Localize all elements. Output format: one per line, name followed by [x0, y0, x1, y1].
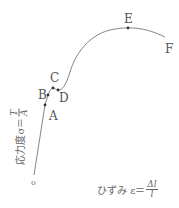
- label-E: E: [124, 13, 133, 25]
- label-D: D: [59, 92, 69, 104]
- origin-label: o: [31, 178, 36, 187]
- x-axis-text: ひずみ ε＝: [97, 182, 145, 197]
- y-axis-fraction: T A: [10, 109, 29, 117]
- label-B: B: [38, 89, 47, 101]
- y-axis-label: 応力度σ＝ T A: [10, 75, 29, 165]
- x-axis-label: ひずみ ε＝ Δl l: [97, 180, 158, 199]
- label-A: A: [49, 110, 58, 122]
- y-axis-text: 応力度σ＝: [12, 118, 27, 165]
- point-B-marker: [47, 94, 50, 97]
- y-frac-den: A: [20, 109, 29, 116]
- point-C-marker: [52, 87, 55, 90]
- x-axis-fraction: Δl l: [146, 180, 157, 199]
- point-A-marker: [44, 104, 47, 107]
- curve-path: [34, 28, 165, 175]
- point-E-marker: [127, 27, 130, 30]
- label-C: C: [50, 72, 59, 84]
- x-frac-den: l: [151, 190, 154, 199]
- label-F: F: [165, 43, 173, 55]
